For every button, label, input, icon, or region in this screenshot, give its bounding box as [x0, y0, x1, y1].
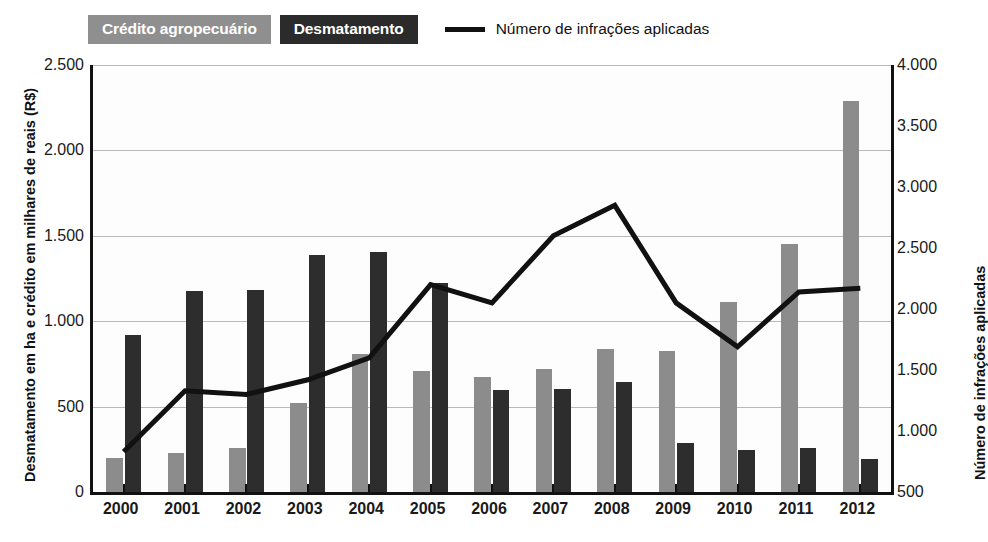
y-axis-right-tick-label: 1.000: [897, 422, 937, 440]
x-axis-tick-label: 2009: [655, 500, 691, 518]
legend-label: Crédito agropecuário: [102, 20, 257, 38]
legend-label: Desmatamento: [294, 20, 404, 38]
y-axis-left-tick-label: 1.500: [44, 227, 84, 245]
plot-area: [90, 65, 894, 495]
x-axis-ticks: 2000200120022003200420052006200720082009…: [90, 500, 888, 530]
y-axis-right-tick-label: 500: [897, 483, 924, 501]
y-axis-right-tick-label: 4.000: [897, 56, 937, 74]
x-axis-tick-label: 2011: [779, 500, 814, 518]
legend-label: Número de infrações aplicadas: [496, 20, 710, 38]
x-axis-tick-label: 2005: [410, 500, 446, 518]
x-axis-tick-label: 2000: [103, 500, 139, 518]
y-axis-left-tick-label: 500: [57, 398, 84, 416]
line-series-layer: [93, 65, 891, 492]
line-infracoes[interactable]: [124, 205, 861, 451]
y-axis-right-tick-label: 1.500: [897, 361, 937, 379]
y-axis-left-tick-label: 0: [75, 483, 84, 501]
y-axis-left-ticks: 2.5002.0001.5001.0005000: [0, 0, 87, 542]
x-axis-tick-label: 2010: [717, 500, 753, 518]
chart-legend: Crédito agropecuárioDesmatamentoNúmero d…: [88, 14, 709, 44]
x-axis-tick-label: 2008: [594, 500, 630, 518]
x-axis-tick-label: 2001: [164, 500, 200, 518]
y-axis-left-tick-label: 2.000: [44, 141, 84, 159]
legend-infracoes[interactable]: Número de infrações aplicadas: [445, 20, 710, 38]
y-axis-right-tick-label: 3.500: [897, 117, 937, 135]
x-axis-tick-label: 2002: [226, 500, 262, 518]
y-axis-right-tick-label: 3.000: [897, 178, 937, 196]
x-axis-tick-label: 2006: [471, 500, 507, 518]
legend-credito[interactable]: Crédito agropecuário: [88, 15, 271, 44]
x-axis-tick-label: 2004: [348, 500, 384, 518]
x-axis-tick-label: 2007: [533, 500, 569, 518]
x-axis-tick-label: 2012: [840, 500, 876, 518]
y-axis-right-tick-label: 2.500: [897, 239, 937, 257]
y-axis-left-tick-label: 2.500: [44, 56, 84, 74]
legend-line-icon: [445, 27, 485, 32]
y-axis-right-tick-label: 2.000: [897, 300, 937, 318]
x-axis-tick-label: 2003: [287, 500, 323, 518]
y-axis-left-tick-label: 1.000: [44, 312, 84, 330]
y-axis-right-ticks: 4.0003.5003.0002.5002.0001.5001.000500: [897, 0, 977, 542]
legend-desmatamento[interactable]: Desmatamento: [280, 15, 418, 44]
